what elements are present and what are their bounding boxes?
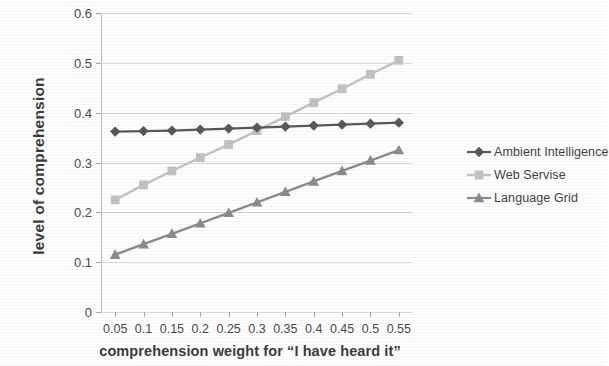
data-point-marker: [475, 170, 484, 179]
data-point-marker: [394, 56, 403, 65]
x-axis-tick: [399, 312, 400, 317]
data-point-marker: [337, 119, 347, 129]
x-axis-tick: [285, 312, 286, 317]
plot-area: 00.10.20.30.40.50.6 0.050.10.150.20.250.…: [101, 13, 413, 312]
data-point-marker: [167, 125, 177, 135]
data-point-marker: [366, 70, 375, 79]
legend-label: Language Grid: [494, 191, 578, 205]
x-axis-tick-label: 0.55: [387, 322, 411, 336]
data-point-marker: [474, 146, 484, 156]
data-point-marker: [224, 140, 233, 149]
x-axis-tick: [115, 312, 116, 317]
x-axis-title: comprehension weight for “I have heard i…: [60, 343, 440, 359]
x-axis-tick-label: 0.45: [330, 322, 354, 336]
x-axis-tick: [342, 312, 343, 317]
x-axis-tick-label: 0.4: [305, 322, 322, 336]
data-point-marker: [195, 124, 205, 134]
y-axis-tick: [96, 312, 101, 313]
data-point-marker: [365, 118, 375, 128]
legend-label: Web Servise: [494, 168, 566, 182]
x-axis-tick-label: 0.05: [103, 322, 127, 336]
x-axis-tick: [257, 312, 258, 317]
y-axis-tick-label: 0.4: [74, 105, 92, 120]
x-axis-tick: [144, 312, 145, 317]
legend: Ambient Intelligence Web Servise Languag…: [466, 140, 605, 209]
x-axis-tick-label: 0.1: [135, 322, 152, 336]
x-axis-tick-label: 0.25: [216, 322, 240, 336]
data-point-marker: [138, 126, 148, 136]
x-axis-tick: [370, 312, 371, 317]
legend-marker-triangle-icon: [466, 191, 492, 205]
data-point-marker: [196, 153, 205, 162]
y-axis-tick-label: 0: [85, 305, 92, 320]
data-point-marker: [168, 167, 177, 176]
data-point-marker: [309, 98, 318, 107]
y-axis-tick-label: 0.3: [74, 155, 92, 170]
y-axis-tick-label: 0.1: [74, 255, 92, 270]
data-point-marker: [338, 84, 347, 93]
data-point-marker: [223, 123, 233, 133]
x-axis-tick: [172, 312, 173, 317]
legend-item-ambient-intelligence: Ambient Intelligence: [466, 140, 605, 163]
data-point-marker: [110, 126, 120, 136]
legend-marker-diamond-icon: [466, 145, 492, 159]
y-axis-tick-label: 0.5: [74, 55, 92, 70]
x-axis-tick: [229, 312, 230, 317]
legend-item-language-grid: Language Grid: [466, 186, 605, 209]
legend-label: Ambient Intelligence: [494, 145, 609, 159]
legend-item-web-servise: Web Servise: [466, 163, 605, 186]
data-point-marker: [394, 117, 404, 127]
data-point-marker: [139, 181, 148, 190]
data-point-marker: [111, 195, 120, 204]
legend-marker-square-icon: [466, 168, 492, 182]
x-axis-tick-label: 0.35: [273, 322, 297, 336]
y-axis-tick-label: 0.2: [74, 205, 92, 220]
x-axis-tick: [200, 312, 201, 317]
x-axis-tick-label: 0.5: [362, 322, 379, 336]
data-point-marker: [309, 120, 319, 130]
y-axis-tick-label: 0.6: [74, 6, 92, 21]
series-layer: [101, 13, 413, 312]
data-point-marker: [281, 112, 290, 121]
x-axis-tick-label: 0.2: [192, 322, 209, 336]
x-axis-tick: [314, 312, 315, 317]
data-point-marker: [393, 145, 404, 155]
y-axis-title: level of comprehension: [30, 41, 48, 291]
data-point-marker: [280, 121, 290, 131]
x-axis-tick-label: 0.15: [160, 322, 184, 336]
x-axis-tick-label: 0.3: [248, 322, 265, 336]
